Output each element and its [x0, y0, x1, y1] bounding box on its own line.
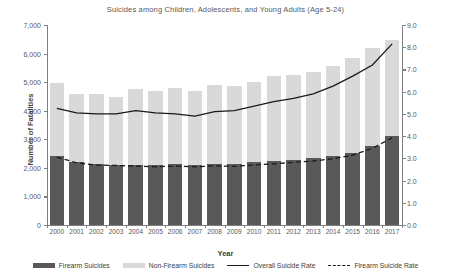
bar-segment-firearm: [188, 165, 203, 225]
y-axis-right-tick-label: 5.0: [407, 110, 433, 117]
bar-segment-nonfirearm: [227, 86, 242, 164]
bar-segment-firearm: [326, 156, 341, 225]
legend-swatch-dashed-line: [328, 265, 350, 266]
bar-segment-firearm: [109, 165, 124, 225]
bar-column[interactable]: [247, 25, 262, 225]
bar-segment-firearm: [286, 160, 301, 225]
bar-column[interactable]: [148, 25, 163, 225]
y-axis-right-tick-label: 4.0: [407, 133, 433, 140]
x-axis-tick-label: 2012: [286, 228, 301, 235]
x-axis-tick: [165, 225, 166, 228]
bar-segment-firearm: [345, 153, 360, 225]
legend-item[interactable]: Firearm Suicides: [33, 262, 110, 269]
bar-column[interactable]: [207, 25, 222, 225]
bar-column[interactable]: [306, 25, 321, 225]
y-axis-right-tick-label: 3.0: [407, 155, 433, 162]
bar-segment-nonfirearm: [148, 91, 163, 165]
bar-segment-firearm: [385, 136, 400, 225]
x-axis-tick: [225, 225, 226, 228]
bar-segment-firearm: [69, 162, 84, 225]
bar-column[interactable]: [227, 25, 242, 225]
bar-column[interactable]: [69, 25, 84, 225]
x-axis-tick: [363, 225, 364, 228]
x-axis-tick: [47, 225, 48, 228]
bar-segment-firearm: [148, 165, 163, 225]
legend-item[interactable]: Firearm Suicide Rate: [328, 262, 418, 269]
bar-column[interactable]: [50, 25, 65, 225]
bar-segment-firearm: [365, 146, 380, 225]
y-axis-right-tick-label: 0.0: [407, 222, 433, 229]
bar-segment-nonfirearm: [306, 72, 321, 158]
bar-segment-firearm: [89, 164, 104, 225]
bar-column[interactable]: [128, 25, 143, 225]
x-axis-tick-label: 2016: [365, 228, 380, 235]
x-axis-tick-label: 2004: [128, 228, 143, 235]
bar-segment-nonfirearm: [89, 94, 104, 164]
y-axis-right-tick-label: 1.0: [407, 199, 433, 206]
bar-segment-firearm: [227, 164, 242, 225]
bar-column[interactable]: [286, 25, 301, 225]
y-axis-right-tick-label: 6.0: [407, 88, 433, 95]
y-axis-left-title: Number of Fatalities: [26, 50, 35, 210]
bar-column[interactable]: [267, 25, 282, 225]
x-axis-title: Year: [0, 249, 451, 258]
bar-segment-firearm: [207, 164, 222, 225]
bar-segment-firearm: [50, 156, 65, 225]
x-axis-tick-label: 2014: [326, 228, 341, 235]
y-axis-left-tick-label: 2,000: [5, 164, 41, 171]
y-axis-right-tick-label: 7.0: [407, 66, 433, 73]
bar-column[interactable]: [109, 25, 124, 225]
y-axis-left-tick-label: 3,000: [5, 136, 41, 143]
x-axis-tick: [86, 225, 87, 228]
y-axis-right-tick: [403, 92, 406, 93]
legend-swatch-solid-line: [227, 265, 249, 266]
legend-item[interactable]: Overall Suicide Rate: [227, 262, 315, 269]
legend-label: Firearm Suicide Rate: [354, 262, 418, 269]
x-axis-tick: [382, 225, 383, 228]
x-axis-tick: [106, 225, 107, 228]
bar-column[interactable]: [168, 25, 183, 225]
bar-segment-firearm: [306, 158, 321, 225]
bar-segment-nonfirearm: [267, 76, 282, 161]
bar-segment-nonfirearm: [168, 88, 183, 165]
x-axis-tick-label: 2006: [168, 228, 183, 235]
bar-segment-nonfirearm: [365, 48, 380, 147]
bar-segment-nonfirearm: [109, 97, 124, 165]
y-axis-right-tick-label: 9.0: [407, 22, 433, 29]
legend-label: Firearm Suicides: [59, 262, 110, 269]
x-axis-tick: [185, 225, 186, 228]
bar-segment-nonfirearm: [188, 91, 203, 164]
y-axis-right-tick: [403, 25, 406, 26]
x-axis-tick-label: 2008: [207, 228, 222, 235]
legend-item[interactable]: Non-Firearm Suicides: [123, 262, 215, 269]
y-axis-left-tick-label: 0: [5, 222, 41, 229]
bar-segment-firearm: [128, 165, 143, 225]
bar-column[interactable]: [345, 25, 360, 225]
plot-area: [47, 25, 402, 225]
y-axis-right-tick: [403, 203, 406, 204]
x-axis-tick-label: 2017: [385, 228, 400, 235]
x-axis-tick-label: 2005: [148, 228, 163, 235]
bar-column[interactable]: [385, 25, 400, 225]
x-axis-tick: [126, 225, 127, 228]
x-axis-tick: [205, 225, 206, 228]
bar-segment-nonfirearm: [128, 89, 143, 165]
bar-column[interactable]: [188, 25, 203, 225]
x-axis-tick-label: 2009: [227, 228, 242, 235]
x-axis-tick: [402, 225, 403, 228]
y-axis-right-tick: [403, 47, 406, 48]
legend-swatch-box: [33, 263, 55, 268]
x-axis-tick-label: 2003: [109, 228, 124, 235]
y-axis-right-tick: [403, 158, 406, 159]
bar-column[interactable]: [365, 25, 380, 225]
bar-column[interactable]: [89, 25, 104, 225]
bar-segment-nonfirearm: [69, 94, 84, 162]
x-axis-tick: [323, 225, 324, 228]
bar-column[interactable]: [326, 25, 341, 225]
bar-segment-nonfirearm: [286, 75, 301, 160]
y-axis-left-tick-label: 4,000: [5, 107, 41, 114]
y-axis-right-tick: [403, 181, 406, 182]
y-axis-right-tick: [403, 114, 406, 115]
x-axis-tick: [244, 225, 245, 228]
x-axis-tick-label: 2010: [247, 228, 262, 235]
